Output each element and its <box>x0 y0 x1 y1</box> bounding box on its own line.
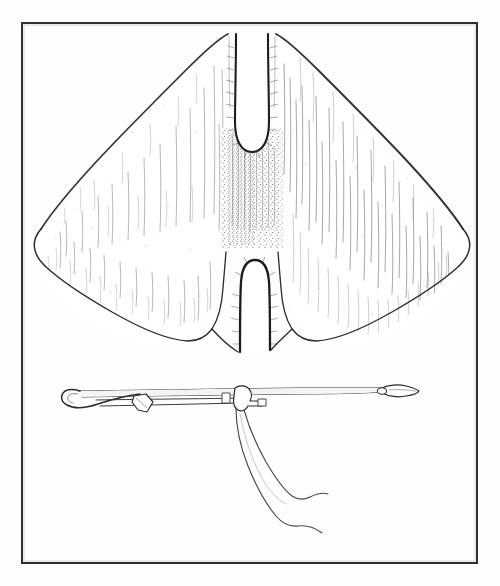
lance-point-eye <box>377 388 386 395</box>
illustration-plate <box>0 0 500 586</box>
line-art-canvas <box>0 0 500 586</box>
lance-socket-lug <box>258 399 266 406</box>
fluke-upper-notch <box>235 34 269 152</box>
fluke-lower-notch <box>240 260 270 352</box>
lance-collar <box>222 393 230 403</box>
